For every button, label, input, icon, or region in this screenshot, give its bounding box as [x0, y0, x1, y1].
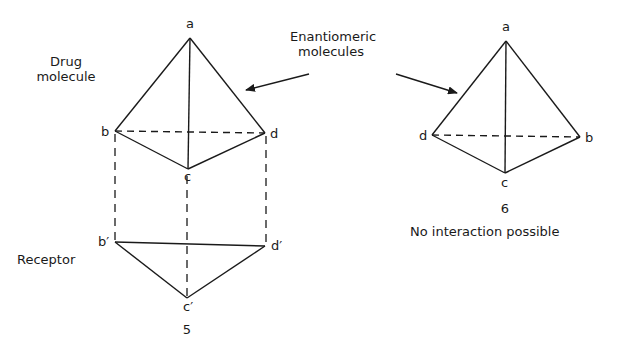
- receptor-label: Receptor: [17, 252, 75, 267]
- figure-5-number: 5: [177, 322, 197, 337]
- left-tetrahedron: [115, 38, 265, 169]
- drug-molecule-label-line2: molecule: [32, 69, 100, 84]
- receptor-triangle: [115, 242, 265, 298]
- enantiomeric-label-line1: Enantiomeric: [290, 29, 410, 44]
- right-tetrahedron: [432, 41, 580, 173]
- edge-d-b-hidden: [432, 135, 580, 137]
- arrow-to-enantiomer: [396, 74, 457, 93]
- vertex-label-c-prime: c′: [183, 300, 193, 313]
- arrow-to-drug-molecule: [246, 74, 309, 90]
- edge-a-c: [188, 38, 190, 169]
- edge-c-d: [188, 133, 265, 169]
- drug-molecule-label-line1: Drug: [32, 54, 100, 69]
- vertex-label-d-right: d: [419, 129, 427, 142]
- figure-6-caption: No interaction possible: [410, 224, 559, 239]
- edge-b-d-hidden: [115, 131, 265, 133]
- edge-d-c: [432, 135, 505, 173]
- edge-a-b: [115, 38, 190, 131]
- vertex-label-d-left: d: [270, 127, 278, 140]
- edge-b-d-prime: [115, 242, 265, 246]
- edge-a-d: [190, 38, 265, 133]
- edge-b-c-prime: [115, 242, 187, 298]
- edge-c-b: [505, 137, 580, 173]
- vertex-label-b-prime: b′: [98, 235, 109, 248]
- vertex-label-c-left: c: [184, 170, 191, 183]
- edge-a-b: [506, 41, 580, 137]
- enantiomeric-molecules-label: Enantiomeric molecules: [290, 29, 410, 59]
- drug-molecule-label: Drug molecule: [32, 54, 100, 84]
- edge-b-c: [115, 131, 188, 169]
- projection-lines: [115, 134, 266, 296]
- vertex-label-d-prime: d′: [271, 239, 282, 252]
- vertex-label-b-right: b: [585, 131, 593, 144]
- figure-6-number: 6: [495, 201, 515, 216]
- edge-c-d-prime: [187, 246, 265, 298]
- vertex-label-c-right: c: [501, 176, 508, 189]
- enantiomeric-label-line2: molecules: [290, 44, 410, 59]
- vertex-label-a-left: a: [186, 17, 194, 30]
- vertex-label-b-left: b: [101, 125, 109, 138]
- vertex-label-a-right: a: [502, 20, 510, 33]
- edge-a-c: [505, 41, 506, 173]
